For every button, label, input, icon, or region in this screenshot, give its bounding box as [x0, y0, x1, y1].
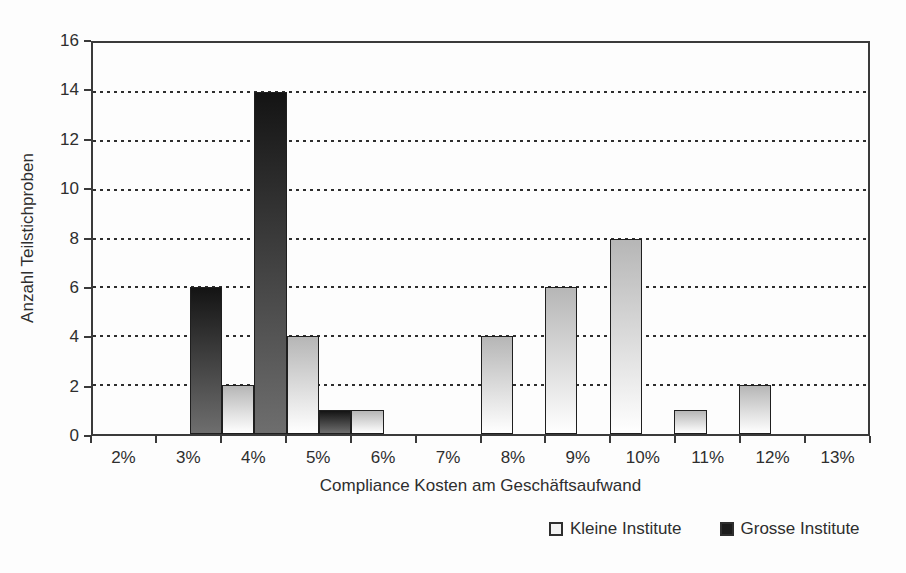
x-tick-label-2%: 2% — [111, 448, 136, 468]
y-tick-label-8: 8 — [0, 229, 79, 249]
y-tick-label-14: 14 — [0, 80, 79, 100]
gridline-y-14 — [93, 91, 868, 93]
y-tick-12 — [84, 139, 91, 141]
legend-label-grosse-institute: Grosse Institute — [741, 519, 860, 539]
bar-kleine-institute-9% — [545, 287, 577, 434]
y-tick-6 — [84, 287, 91, 289]
x-tick-5 — [415, 436, 417, 443]
legend-item-kleine-institute: Kleine Institute — [549, 519, 682, 539]
x-tick-label-11%: 11% — [691, 448, 724, 468]
x-tick-label-13%: 13% — [821, 448, 855, 468]
kleine-institute-swatch — [549, 522, 563, 536]
bar-kleine-institute-5% — [287, 336, 319, 434]
bar-grosse-institute-5% — [319, 410, 351, 434]
x-tick-6 — [480, 436, 482, 443]
y-tick-label-12: 12 — [0, 130, 79, 150]
bar-grosse-institute-4% — [254, 92, 286, 434]
plot-area — [91, 41, 870, 436]
x-tick-3 — [285, 436, 287, 443]
x-axis-title: Compliance Kosten am Geschäftsaufwand — [91, 476, 870, 496]
x-tick-label-6%: 6% — [371, 448, 396, 468]
x-tick-9 — [674, 436, 676, 443]
legend-item-grosse-institute: Grosse Institute — [720, 519, 860, 539]
x-tick-12 — [869, 436, 871, 443]
bar-kleine-institute-11% — [674, 410, 706, 434]
y-tick-16 — [84, 40, 91, 42]
y-tick-8 — [84, 238, 91, 240]
y-tick-4 — [84, 336, 91, 338]
y-tick-label-2: 2 — [0, 377, 79, 397]
bar-kleine-institute-12% — [739, 385, 771, 434]
bar-kleine-institute-6% — [351, 410, 383, 434]
x-tick-8 — [609, 436, 611, 443]
x-tick-label-4%: 4% — [241, 448, 266, 468]
y-tick-label-16: 16 — [0, 31, 79, 51]
x-tick-label-8%: 8% — [501, 448, 526, 468]
y-tick-2 — [84, 386, 91, 388]
grosse-institute-swatch — [720, 522, 734, 536]
y-tick-label-6: 6 — [0, 278, 79, 298]
x-tick-label-9%: 9% — [566, 448, 591, 468]
x-tick-0 — [90, 436, 92, 443]
bar-kleine-institute-8% — [481, 336, 513, 434]
x-tick-label-10%: 10% — [626, 448, 660, 468]
y-tick-14 — [84, 89, 91, 91]
x-tick-11 — [804, 436, 806, 443]
y-tick-label-10: 10 — [0, 179, 79, 199]
bar-grosse-institute-3% — [190, 287, 222, 434]
legend: Kleine Institute Grosse Institute — [549, 519, 860, 539]
y-tick-label-4: 4 — [0, 327, 79, 347]
x-tick-label-3%: 3% — [176, 448, 201, 468]
chart-container: Anzahl Teilstichproben Compliance Kosten… — [0, 0, 906, 573]
gridline-y-10 — [93, 189, 868, 191]
x-tick-7 — [544, 436, 546, 443]
gridline-y-12 — [93, 140, 868, 142]
x-tick-4 — [350, 436, 352, 443]
x-tick-label-5%: 5% — [306, 448, 331, 468]
x-tick-2 — [220, 436, 222, 443]
y-tick-label-0: 0 — [0, 426, 79, 446]
x-tick-label-7%: 7% — [436, 448, 461, 468]
x-tick-1 — [155, 436, 157, 443]
bar-kleine-institute-4% — [222, 385, 254, 434]
bar-kleine-institute-10% — [610, 239, 642, 435]
y-tick-10 — [84, 188, 91, 190]
legend-label-kleine-institute: Kleine Institute — [570, 519, 682, 539]
x-tick-label-12%: 12% — [756, 448, 790, 468]
x-tick-10 — [739, 436, 741, 443]
gridline-y-8 — [93, 238, 868, 240]
